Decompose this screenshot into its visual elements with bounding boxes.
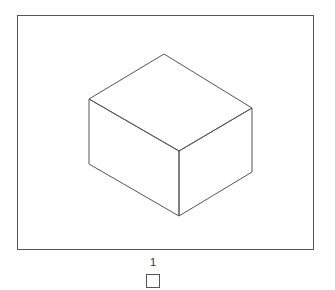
cube-left-face [89,99,179,216]
isometric-cube-drawing [0,0,335,290]
cube-right-face [179,108,252,216]
cube-top-face [89,54,252,151]
figure-label: 1 [148,256,158,268]
answer-box[interactable] [146,274,160,288]
